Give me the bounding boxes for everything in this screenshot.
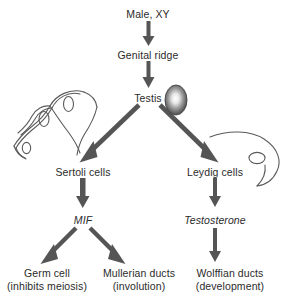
node-wolffian-ducts: Wolffian ducts (development) <box>196 267 264 292</box>
node-mullerian-ducts-line1: Mullerian ducts <box>103 267 175 279</box>
arrow-male-to-genital-ridge <box>143 21 155 46</box>
node-wolffian-ducts-line2: (development) <box>196 280 264 293</box>
node-leydig-cells: Leydig cells <box>187 166 243 178</box>
node-mullerian-ducts: Mullerian ducts (involution) <box>103 267 175 292</box>
node-mif: MIF <box>74 214 92 226</box>
arrow-genital-ridge-to-testis <box>143 61 155 88</box>
testis-oval-icon <box>165 85 187 115</box>
node-testosterone: Testosterone <box>184 214 246 226</box>
node-genital-ridge: Genital ridge <box>118 49 179 61</box>
arrow-leydig-to-testosterone <box>209 178 221 207</box>
node-male-xy: Male, XY <box>126 8 169 20</box>
arrow-mif-to-germ-cell <box>41 228 77 264</box>
arrow-testosterone-to-wolffian <box>209 228 221 262</box>
node-wolffian-ducts-line1: Wolffian ducts <box>197 267 264 279</box>
sertoli-cell-illustration <box>14 91 97 159</box>
node-testis: Testis <box>134 92 161 104</box>
arrow-mif-to-mullerian-ducts <box>90 228 126 264</box>
node-germ-cell-line1: Germ cell <box>24 267 70 279</box>
node-sertoli-cells: Sertoli cells <box>56 166 111 178</box>
node-germ-cell-line2: (inhibits meiosis) <box>7 280 87 293</box>
arrow-sertoli-to-mif <box>76 178 90 208</box>
diagram-graphics-layer <box>0 0 295 305</box>
arrow-testis-to-leydig <box>160 105 219 163</box>
arrow-testis-to-sertoli <box>80 105 140 163</box>
pathway-diagram: Male, XY Genital ridge Testis Sertoli ce… <box>0 0 295 305</box>
node-mullerian-ducts-line2: (involution) <box>103 280 175 293</box>
node-germ-cell: Germ cell (inhibits meiosis) <box>7 267 87 292</box>
